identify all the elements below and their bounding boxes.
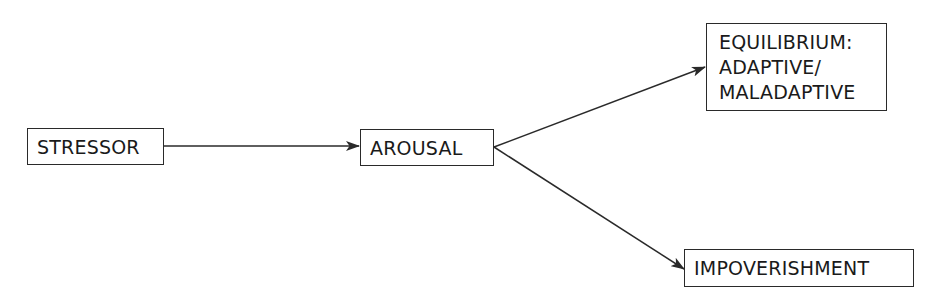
diagram-canvas: STRESSOR AROUSAL EQUILIBRIUM: ADAPTIVE/ … <box>0 0 934 300</box>
node-arousal: AROUSAL <box>360 129 494 166</box>
edge-arousal-to-equilibrium <box>494 67 705 147</box>
node-impoverishment: IMPOVERISHMENT <box>684 249 914 287</box>
node-impoverishment-label: IMPOVERISHMENT <box>694 257 869 279</box>
edge-arousal-to-impoverishment <box>494 147 684 269</box>
node-stressor-label: STRESSOR <box>37 136 140 158</box>
node-equilibrium: EQUILIBRIUM: ADAPTIVE/ MALADAPTIVE <box>706 23 887 111</box>
node-arousal-label: AROUSAL <box>370 137 462 159</box>
node-equilibrium-line-3: MALADAPTIVE <box>719 80 856 105</box>
node-equilibrium-line-1: EQUILIBRIUM: <box>719 30 853 55</box>
node-equilibrium-line-2: ADAPTIVE/ <box>719 55 821 80</box>
node-stressor: STRESSOR <box>27 128 164 165</box>
